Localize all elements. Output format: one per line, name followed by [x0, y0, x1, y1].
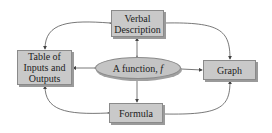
table-line1: Table of — [28, 51, 61, 62]
formula-box: Formula — [109, 103, 163, 123]
graph-label: Graph — [217, 65, 242, 76]
verbal-description-box: Verbal Description — [111, 10, 164, 37]
function-symbol: f — [160, 63, 163, 74]
formula-label: Formula — [119, 108, 153, 119]
table-box: Table of Inputs and Outputs — [17, 50, 72, 85]
verbal-line1: Verbal — [124, 13, 150, 24]
table-line3: Outputs — [29, 73, 61, 84]
verbal-line2: Description — [114, 24, 161, 35]
graph-box: Graph — [203, 60, 256, 80]
function-label: A function, — [113, 63, 161, 74]
table-line2: Inputs and — [24, 62, 66, 73]
function-ellipse: A function, f — [95, 57, 181, 79]
